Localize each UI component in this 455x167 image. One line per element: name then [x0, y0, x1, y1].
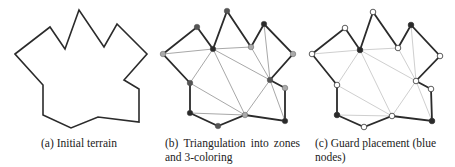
- panel-c-guard-placement: [309, 9, 443, 130]
- diagonal-edge: [190, 113, 245, 115]
- guard-node: [334, 112, 340, 118]
- diagonal-edge: [213, 47, 251, 49]
- guard-node: [357, 47, 363, 53]
- diagonal-edge: [360, 48, 398, 50]
- diagonal-edge: [337, 50, 360, 85]
- colored-vertex-node: [282, 118, 288, 124]
- panel-b-triangulation: [160, 8, 296, 129]
- diagonal-edge: [360, 50, 392, 116]
- colored-vertex-node: [187, 80, 193, 86]
- colored-vertex-node: [160, 51, 166, 57]
- colored-vertex-node: [282, 85, 288, 91]
- guard-node: [408, 22, 414, 28]
- diagonal-edge: [213, 49, 245, 115]
- diagonal-edge: [163, 49, 213, 54]
- colored-vertex-node: [261, 21, 267, 27]
- vertex-node: [413, 78, 419, 84]
- diagonal-edge: [190, 49, 213, 83]
- panel-a-initial-terrain: [15, 10, 147, 128]
- diagonal-edge: [337, 85, 392, 116]
- colored-vertex-node: [187, 110, 193, 116]
- vertex-node: [309, 51, 315, 57]
- caption-a: (a) Initial terrain: [41, 136, 117, 150]
- vertex-node: [395, 45, 401, 51]
- diagonal-edge: [312, 50, 360, 54]
- diagonal-edge: [337, 115, 392, 116]
- guard-node: [429, 118, 435, 124]
- vertex-node: [361, 124, 367, 130]
- colored-vertex-node: [215, 123, 221, 129]
- caption-c: (c) Guard placement (blue nodes): [315, 136, 450, 164]
- vertex-node: [334, 82, 340, 88]
- diagonal-edge: [245, 80, 270, 115]
- colored-vertex-node: [248, 44, 254, 50]
- vertex-node: [437, 53, 443, 59]
- vertex-node: [342, 25, 348, 31]
- vertex-node: [428, 86, 434, 92]
- colored-vertex-node: [224, 8, 230, 14]
- vertex-node: [370, 9, 376, 15]
- colored-vertex-node: [290, 51, 296, 57]
- colored-vertex-node: [194, 24, 200, 30]
- colored-vertex-node: [242, 112, 248, 118]
- colored-vertex-node: [210, 46, 216, 52]
- diagonal-edge: [392, 81, 416, 116]
- terrain-boundary: [312, 12, 440, 127]
- terrain-boundary: [163, 11, 293, 126]
- caption-b: (b) Triangulation into zones and 3-color…: [165, 136, 300, 164]
- vertex-node: [389, 113, 395, 119]
- terrain-boundary: [15, 10, 147, 128]
- colored-vertex-node: [267, 77, 273, 83]
